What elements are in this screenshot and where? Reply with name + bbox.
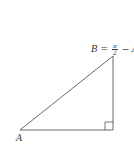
right-angle-marker	[105, 122, 113, 130]
triangle-diagram	[0, 0, 134, 153]
vertex-b-label: B = π 2 − A	[91, 43, 134, 56]
minus-a-text: − A	[122, 44, 134, 54]
pi-over-2-fraction: π 2	[112, 43, 118, 56]
right-triangle	[20, 56, 113, 130]
vertex-a-label: A	[16, 134, 23, 143]
b-equals-text: B =	[91, 44, 108, 54]
fraction-denominator: 2	[112, 50, 118, 56]
